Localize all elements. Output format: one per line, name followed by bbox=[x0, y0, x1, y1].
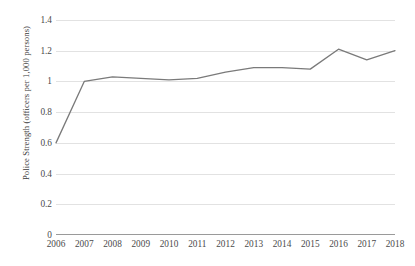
y-axis-tick-label: 0.2 bbox=[8, 199, 56, 209]
x-axis-tick-label: 2018 bbox=[386, 239, 405, 249]
plot-area bbox=[56, 20, 395, 235]
x-axis-tick-label: 2011 bbox=[188, 239, 206, 249]
x-axis-tick-label: 2016 bbox=[329, 239, 348, 249]
y-axis-tick-label: 0.8 bbox=[8, 107, 56, 117]
y-axis-tick-label: 0.6 bbox=[8, 138, 56, 148]
x-axis-tick-label: 2006 bbox=[47, 239, 66, 249]
y-axis-tick-label: 1.2 bbox=[8, 46, 56, 56]
y-axis-tick-label: 1.4 bbox=[8, 15, 56, 25]
x-axis-tick-label: 2008 bbox=[103, 239, 122, 249]
y-axis-tick-label: 0.4 bbox=[8, 169, 56, 179]
y-axis-tick-labels: 00.20.40.60.811.21.4 bbox=[0, 0, 56, 266]
x-axis-tick-label: 2012 bbox=[216, 239, 235, 249]
x-axis-tick-label: 2009 bbox=[131, 239, 150, 249]
x-axis-tick-label: 2015 bbox=[301, 239, 320, 249]
x-axis-tick-label: 2014 bbox=[273, 239, 292, 249]
line-chart: Police Strength (officers per 1,000 pers… bbox=[0, 0, 415, 266]
x-axis-tick-labels: 2006200720082009201020112012201320142015… bbox=[56, 239, 395, 259]
x-axis-tick-label: 2017 bbox=[357, 239, 376, 249]
y-axis-tick-label: 1 bbox=[8, 76, 56, 86]
x-axis-tick-label: 2013 bbox=[244, 239, 263, 249]
x-axis-tick-label: 2010 bbox=[160, 239, 179, 249]
data-series-police-strength bbox=[56, 20, 395, 235]
data-polyline bbox=[56, 49, 395, 143]
x-axis-tick-label: 2007 bbox=[75, 239, 94, 249]
